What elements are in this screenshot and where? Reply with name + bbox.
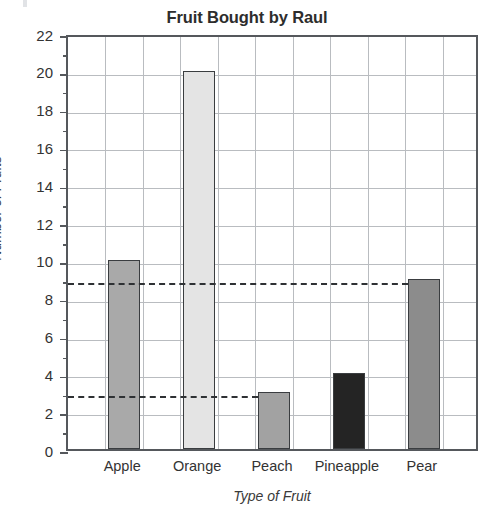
y-tick-minor	[63, 55, 68, 57]
bar-pear	[408, 279, 440, 449]
y-tick-label: 14	[0, 179, 53, 194]
y-tick-minor	[63, 358, 68, 360]
y-tick-major	[60, 377, 68, 379]
y-tick-label: 16	[0, 141, 53, 156]
y-tick-major	[60, 36, 68, 38]
y-tick-major	[60, 74, 68, 76]
gridline-horizontal	[68, 226, 476, 227]
reference-line-3	[68, 396, 258, 398]
y-tick-major	[60, 150, 68, 152]
x-axis-title: Type of Fruit	[66, 488, 478, 504]
y-tick-label: 0	[0, 444, 53, 459]
y-tick-minor	[63, 433, 68, 435]
y-tick-minor	[63, 93, 68, 95]
scan-artifact	[23, 0, 27, 7]
bar-orange	[183, 71, 215, 449]
plot-area	[66, 35, 478, 451]
gridline-vertical	[255, 37, 256, 449]
y-tick-major	[60, 301, 68, 303]
bar-pineapple	[333, 373, 365, 449]
y-tick-label: 10	[0, 254, 53, 269]
y-tick-label: 12	[0, 217, 53, 232]
chart-title: Fruit Bought by Raul	[0, 8, 494, 27]
y-tick-major	[60, 339, 68, 341]
gridline-horizontal	[68, 113, 476, 114]
gridline-horizontal	[68, 75, 476, 76]
y-tick-minor	[63, 131, 68, 133]
y-tick-major	[60, 263, 68, 265]
bar-apple	[108, 260, 140, 449]
y-tick-major	[60, 112, 68, 114]
bar-peach	[258, 392, 290, 449]
gridline-vertical	[143, 37, 144, 449]
gridline-vertical	[218, 37, 219, 449]
gridline-vertical	[180, 37, 181, 449]
y-tick-label: 20	[0, 65, 53, 80]
y-tick-label: 22	[0, 28, 53, 43]
y-tick-major	[60, 452, 68, 454]
y-tick-label: 8	[0, 292, 53, 307]
gridline-horizontal	[68, 188, 476, 189]
y-tick-minor	[63, 206, 68, 208]
x-category-label-pear: Pear	[362, 458, 482, 474]
gridline-vertical	[443, 37, 444, 449]
gridline-vertical	[105, 37, 106, 449]
y-tick-label: 6	[0, 330, 53, 345]
y-tick-major	[60, 188, 68, 190]
gridline-vertical	[293, 37, 294, 449]
bar-chart: Fruit Bought by Raul Number of Fruits Ty…	[0, 0, 494, 515]
y-tick-major	[60, 225, 68, 227]
y-tick-label: 18	[0, 103, 53, 118]
y-tick-minor	[63, 169, 68, 171]
y-tick-major	[60, 414, 68, 416]
gridline-vertical	[368, 37, 369, 449]
gridline-horizontal	[68, 150, 476, 151]
y-tick-label: 2	[0, 406, 53, 421]
y-tick-label: 4	[0, 368, 53, 383]
y-tick-minor	[63, 320, 68, 322]
gridline-vertical	[405, 37, 406, 449]
reference-line-9	[68, 283, 408, 285]
y-tick-minor	[63, 244, 68, 246]
gridline-vertical	[330, 37, 331, 449]
